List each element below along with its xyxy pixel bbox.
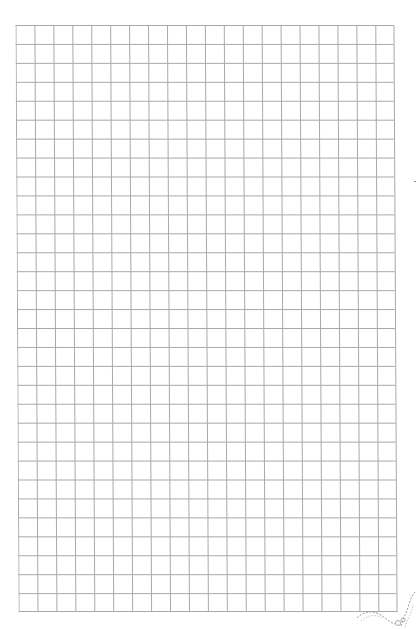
ornament-icon [355, 590, 416, 629]
square-grid [15, 25, 397, 612]
graph-paper-page [0, 0, 416, 629]
